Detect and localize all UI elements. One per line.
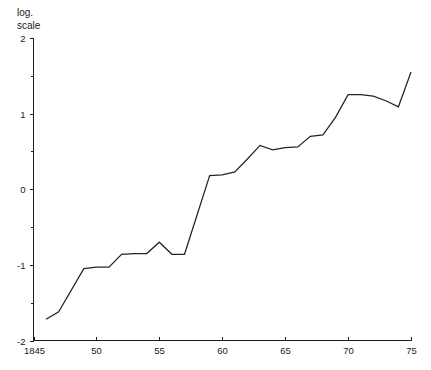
x-axis-major-ticks — [35, 337, 412, 341]
x-tick-label: 55 — [154, 345, 165, 356]
y-tick-label: 0 — [20, 184, 25, 195]
y-axis-major-ticks — [30, 39, 34, 342]
x-tick-label: 60 — [217, 345, 228, 356]
x-tick-label: 1845 — [24, 345, 45, 356]
data-series-line — [46, 72, 411, 319]
y-axis-title-line2: scale — [17, 20, 41, 31]
x-tick-label: 50 — [91, 345, 102, 356]
x-tick-label: 65 — [280, 345, 291, 356]
x-tick-label: 75 — [406, 345, 417, 356]
x-axis-tick-labels: 1845505560657075 — [24, 345, 417, 356]
y-tick-label: -1 — [17, 260, 25, 271]
line-chart: log. scale 210-1-2 1845505560657075 — [0, 0, 431, 370]
y-axis-title-line1: log. — [17, 7, 33, 18]
chart-container: log. scale 210-1-2 1845505560657075 — [0, 0, 431, 370]
x-tick-label: 70 — [343, 345, 354, 356]
y-tick-label: 1 — [20, 109, 25, 120]
y-tick-label: 2 — [20, 33, 25, 44]
y-axis-tick-labels: 210-1-2 — [17, 33, 25, 347]
